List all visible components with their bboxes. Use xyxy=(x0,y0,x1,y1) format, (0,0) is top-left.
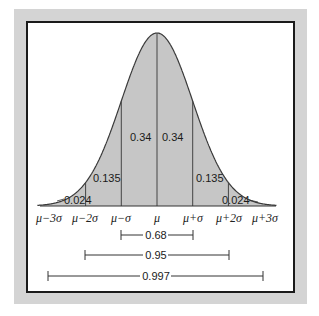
segment-label-right-1: 0.34 xyxy=(162,131,183,143)
tick-mu-plus-2sigma: μ+2σ xyxy=(215,211,243,225)
tick-mu-plus-3sigma: μ+3σ xyxy=(251,211,279,225)
segment-label-right-2: 0.135 xyxy=(196,172,224,184)
interval-label-68: 0.68 xyxy=(145,229,166,241)
tick-mu-minus-sigma: μ−σ xyxy=(110,211,132,225)
interval-label-95: 0.95 xyxy=(145,249,166,261)
tick-mu-minus-3sigma: μ−3σ xyxy=(35,211,63,225)
segment-label-left-3: 0.024 xyxy=(64,194,92,206)
tick-mu-plus-sigma: μ+σ xyxy=(182,211,204,225)
segment-label-left-2: 0.135 xyxy=(93,172,121,184)
segment-label-left-1: 0.34 xyxy=(130,131,151,143)
tick-mu: μ xyxy=(153,211,160,225)
segment-label-right-3: 0.024 xyxy=(222,194,250,206)
tick-mu-minus-2sigma: μ−2σ xyxy=(71,211,99,225)
interval-label-997: 0.997 xyxy=(142,270,170,282)
normal-distribution-chart: 0.024 0.135 0.34 0.34 0.135 0.024 μ−3σ μ… xyxy=(0,0,319,316)
